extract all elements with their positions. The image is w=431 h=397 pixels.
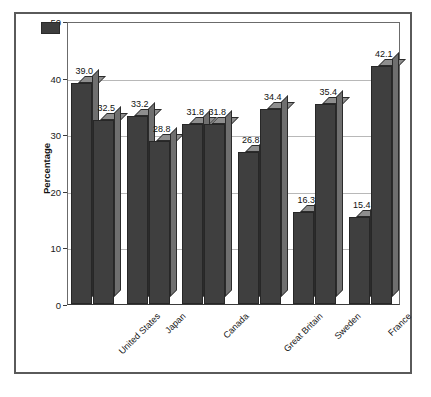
- bar: [93, 120, 114, 304]
- y-tick-label: 40: [31, 73, 61, 84]
- bar: [127, 116, 148, 304]
- gridline: [68, 80, 399, 81]
- plot-area: [67, 22, 400, 305]
- bar-value-label: 31.8: [200, 107, 234, 117]
- bar-front-face: [293, 212, 314, 304]
- bar-front-face: [182, 124, 203, 304]
- bar-value-label: 42.1: [367, 49, 401, 59]
- y-axis-title: Percentage: [41, 143, 52, 194]
- bar-front-face: [349, 217, 370, 304]
- bar-side-face: [170, 127, 177, 297]
- y-tick-label: 30: [31, 130, 61, 141]
- bar-value-label: 26.8: [234, 135, 268, 145]
- bar-front-face: [127, 116, 148, 304]
- bar-value-label: 34.4: [256, 92, 290, 102]
- bar-front-face: [204, 124, 225, 304]
- bar-side-face: [336, 90, 343, 297]
- bar-front-face: [149, 141, 170, 304]
- legend-swatch-personal-laziness: [41, 22, 60, 34]
- bar-value-label: 39.0: [67, 66, 101, 76]
- bar-value-label: 15.4: [345, 200, 379, 210]
- y-tick-mark: [63, 305, 67, 306]
- y-tick-label: 10: [31, 243, 61, 254]
- bar: [204, 124, 225, 304]
- bar-front-face: [71, 83, 92, 304]
- bar: [371, 66, 392, 304]
- bar-front-face: [371, 66, 392, 304]
- bar: [238, 152, 259, 304]
- bar-value-label: 32.5: [89, 103, 123, 113]
- bar: [182, 124, 203, 304]
- bar: [293, 212, 314, 304]
- bar-value-label: 16.3: [289, 195, 323, 205]
- bar-front-face: [238, 152, 259, 304]
- bar-front-face: [93, 120, 114, 304]
- bar-side-face: [114, 106, 121, 297]
- bar: [71, 83, 92, 304]
- bar-value-label: 28.8: [145, 124, 179, 134]
- chart-figure: 01020304050 Percentage Personal laziness…: [0, 0, 431, 397]
- y-tick-label: 0: [31, 300, 61, 311]
- bar-side-face: [281, 95, 288, 297]
- bar-value-label: 35.4: [311, 87, 345, 97]
- bar-side-face: [392, 52, 399, 297]
- bar-value-label: 33.2: [123, 99, 157, 109]
- bar: [149, 141, 170, 304]
- bar-side-face: [225, 110, 232, 297]
- bar: [349, 217, 370, 304]
